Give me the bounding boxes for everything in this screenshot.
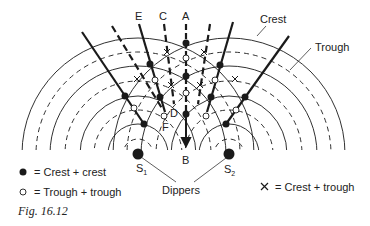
label-A: A — [182, 10, 190, 22]
label-C: C — [159, 10, 167, 22]
figure-caption: Fig. 16.12 — [17, 204, 68, 218]
legend-trough-trough: = Trough + trough — [20, 186, 121, 198]
svg-text:= Trough + trough: = Trough + trough — [34, 186, 121, 198]
interference-diagram: E C A D F B Crest Trough S1 S2 Dippers =… — [0, 0, 370, 226]
legend-crest-trough: = Crest + trough — [261, 181, 355, 193]
svg-text:= Crest + trough: = Crest + trough — [275, 181, 355, 193]
label-s1: S1 — [136, 162, 147, 176]
crest-annotation: Crest — [257, 13, 286, 36]
label-D: D — [170, 107, 178, 119]
legend-crest-crest: = Crest + crest — [20, 166, 107, 178]
svg-text:Crest: Crest — [260, 13, 286, 25]
label-E: E — [135, 10, 142, 22]
nodal-right-1 — [198, 24, 210, 104]
label-F: F — [162, 121, 169, 133]
label-s2: S2 — [224, 163, 235, 177]
line-C — [164, 24, 174, 104]
label-B: B — [182, 154, 189, 166]
trough-annotation: Trough — [290, 41, 349, 70]
source-s2-dot — [224, 149, 235, 160]
svg-text:= Crest + crest: = Crest + crest — [34, 166, 106, 178]
svg-text:Dippers: Dippers — [162, 184, 200, 196]
svg-text:Trough: Trough — [315, 41, 349, 53]
